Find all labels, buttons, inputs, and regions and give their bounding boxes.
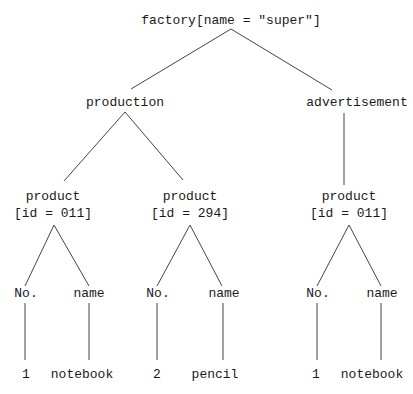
node-no-3: No. — [306, 285, 329, 302]
node-product-3: product — [322, 188, 377, 205]
edge-production-product2 — [125, 112, 183, 180]
value-no-2: 2 — [153, 366, 161, 383]
node-product-2: product — [163, 188, 218, 205]
node-name-3: name — [366, 285, 397, 302]
edge-product1-name — [54, 225, 89, 286]
value-name-1: notebook — [51, 366, 113, 383]
node-no-2: No. — [146, 285, 169, 302]
edge-root-production — [131, 29, 231, 89]
value-no-1: 1 — [22, 366, 30, 383]
root-node-factory: factory[name = "super"] — [141, 12, 320, 29]
node-product-1: product — [26, 188, 81, 205]
node-name-1: name — [73, 285, 104, 302]
xml-tree-diagram: factory[name = "super"] production adver… — [0, 0, 413, 394]
value-name-2: pencil — [192, 366, 239, 383]
edge-product3-no — [317, 225, 349, 286]
node-name-2: name — [208, 285, 239, 302]
node-no-1: No. — [14, 285, 37, 302]
node-product-2-attr: [id = 294] — [151, 205, 229, 222]
node-production: production — [86, 94, 164, 111]
node-product-3-attr: [id = 011] — [310, 205, 388, 222]
edge-product3-name — [349, 225, 381, 286]
node-product-1-attr: [id = 011] — [14, 205, 92, 222]
edge-product2-no — [157, 225, 190, 286]
value-no-3: 1 — [312, 366, 320, 383]
edge-product1-no — [25, 225, 54, 286]
edge-root-advertisement — [231, 29, 332, 90]
node-advertisement: advertisement — [306, 94, 407, 111]
edge-product2-name — [190, 225, 222, 286]
edge-production-product1 — [64, 112, 125, 181]
value-name-3: notebook — [341, 366, 403, 383]
